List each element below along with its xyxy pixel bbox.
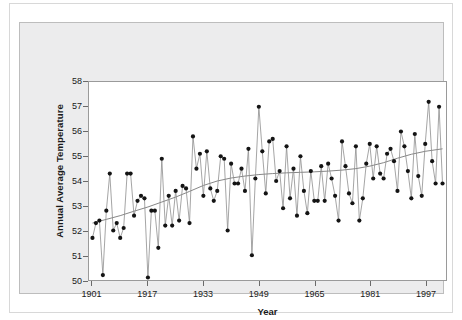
x-tick-label: 1949 <box>239 289 279 299</box>
data-point <box>291 167 295 171</box>
data-point <box>295 214 299 218</box>
y-tick-mark <box>83 156 88 157</box>
series-markers <box>90 100 444 280</box>
data-point <box>90 236 94 240</box>
data-point <box>163 223 167 227</box>
data-point <box>194 167 198 171</box>
plot-svg <box>89 82 446 280</box>
data-point <box>323 199 327 203</box>
y-tick-mark <box>83 206 88 207</box>
data-point <box>104 209 108 213</box>
y-tick-mark <box>83 81 88 82</box>
y-tick-mark <box>83 231 88 232</box>
data-point <box>271 137 275 141</box>
y-tick-label: 58 <box>60 77 82 86</box>
data-point <box>413 132 417 136</box>
data-point <box>264 191 268 195</box>
data-point <box>340 139 344 143</box>
x-tick-label: 1901 <box>71 289 111 299</box>
data-point <box>215 189 219 193</box>
plot-area <box>88 81 447 281</box>
data-point <box>260 149 264 153</box>
data-point <box>94 221 98 225</box>
data-point <box>132 214 136 218</box>
data-point <box>395 189 399 193</box>
x-axis-title: Year <box>88 306 447 317</box>
data-point <box>354 144 358 148</box>
chart-figure: Annual Average Temperature Year 50515253… <box>0 0 462 320</box>
data-point <box>278 169 282 173</box>
data-point <box>219 154 223 158</box>
data-point <box>343 164 347 168</box>
data-point <box>430 159 434 163</box>
y-tick-label: 56 <box>60 127 82 136</box>
data-point <box>97 219 101 223</box>
data-point <box>399 129 403 133</box>
y-tick-label: 50 <box>60 277 82 286</box>
data-point <box>302 189 306 193</box>
data-point <box>153 209 157 213</box>
data-point <box>222 157 226 161</box>
data-point <box>184 186 188 190</box>
data-point <box>187 221 191 225</box>
y-tick-label: 52 <box>60 227 82 236</box>
y-tick-mark <box>83 181 88 182</box>
data-point <box>330 176 334 180</box>
data-point <box>316 199 320 203</box>
data-point <box>378 171 382 175</box>
data-point <box>385 152 389 156</box>
data-point <box>427 100 431 104</box>
data-point <box>139 194 143 198</box>
data-point <box>298 154 302 158</box>
data-point <box>350 201 354 205</box>
data-point <box>434 181 438 185</box>
data-point <box>309 169 313 173</box>
data-point <box>205 149 209 153</box>
data-point <box>368 142 372 146</box>
data-point <box>336 219 340 223</box>
data-point <box>382 176 386 180</box>
data-point <box>402 144 406 148</box>
data-point <box>409 196 413 200</box>
data-point <box>420 194 424 198</box>
data-point <box>361 196 365 200</box>
data-point <box>284 144 288 148</box>
data-point <box>388 147 392 151</box>
x-tick-mark <box>370 281 371 286</box>
y-tick-mark <box>83 131 88 132</box>
data-point <box>160 157 164 161</box>
data-point <box>198 152 202 156</box>
data-point <box>246 147 250 151</box>
data-point <box>156 246 160 250</box>
data-point <box>333 194 337 198</box>
data-point <box>274 179 278 183</box>
data-point <box>180 184 184 188</box>
data-point <box>170 223 174 227</box>
data-point <box>437 105 441 109</box>
data-point <box>288 196 292 200</box>
x-tick-mark <box>91 281 92 286</box>
data-point <box>208 186 212 190</box>
data-point <box>267 139 271 143</box>
x-tick-mark <box>147 281 148 286</box>
x-tick-label: 1981 <box>350 289 390 299</box>
chart-panel: Annual Average Temperature Year 50515253… <box>19 22 444 294</box>
data-point <box>191 134 195 138</box>
data-point <box>357 219 361 223</box>
x-tick-label: 1917 <box>127 289 167 299</box>
data-point <box>406 169 410 173</box>
data-point <box>129 171 133 175</box>
x-tick-mark <box>203 281 204 286</box>
y-tick-mark <box>83 281 88 282</box>
data-point <box>416 174 420 178</box>
data-point <box>347 191 351 195</box>
data-point <box>375 144 379 148</box>
x-tick-label: 1997 <box>406 289 446 299</box>
data-point <box>212 199 216 203</box>
data-point <box>167 194 171 198</box>
y-tick-mark <box>83 256 88 257</box>
data-point <box>392 159 396 163</box>
y-tick-label: 57 <box>60 102 82 111</box>
data-point <box>122 226 126 230</box>
x-axis-tick-labels: 1901191719331949196519811997 <box>88 289 447 301</box>
